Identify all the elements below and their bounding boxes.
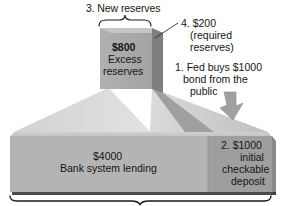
label-new-reserves: 3. New reserves [86, 2, 160, 14]
label-required-amount: 4. $200 [181, 17, 216, 29]
label-deposit-line1: 2. $1000 [221, 139, 262, 151]
label-base-amount: $4000 [93, 150, 122, 162]
label-deposit-line4: deposit [231, 175, 265, 187]
label-deposit-line3: checkable [222, 163, 269, 175]
platform-left-face [14, 88, 150, 132]
label-required-line2: reserves) [190, 41, 234, 53]
label-base-text: Bank system lending [60, 162, 157, 174]
leader-line-icon [155, 23, 178, 38]
label-fed-line2: bond from the [183, 73, 248, 85]
base-slab-bottom-shadow [12, 192, 276, 195]
label-deposit-line2: initial [240, 151, 264, 163]
label-required-line1: (required [190, 29, 232, 41]
label-fed-line3: public [190, 85, 217, 97]
label-column-amount: $800 [112, 41, 135, 53]
column-required-reserves-face [152, 28, 163, 93]
label-column-line2: reserves [103, 65, 143, 77]
label-fed-line1: 1. Fed buys $1000 [175, 61, 262, 73]
curly-brace-up-icon [99, 15, 151, 26]
base-slab-shadow [272, 136, 276, 195]
label-column-line1: Excess [108, 53, 142, 65]
curly-brace-down-icon [10, 196, 271, 205]
